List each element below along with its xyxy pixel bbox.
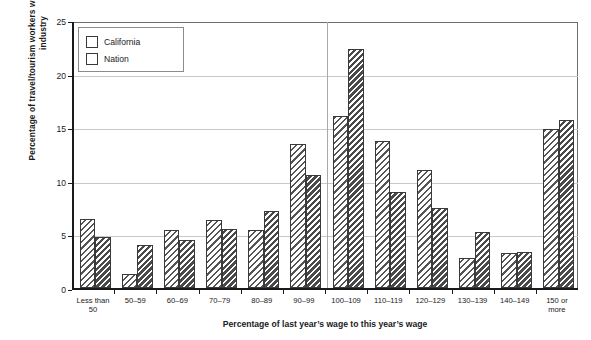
x-tick-mark xyxy=(452,290,453,294)
y-tick-label: 0 xyxy=(42,285,66,295)
bar-group xyxy=(496,22,538,288)
y-tick-label: 5 xyxy=(42,231,66,241)
x-axis-title: Percentage of last year’s wage to this y… xyxy=(72,319,578,329)
bar-california xyxy=(80,219,96,288)
legend-label-california: California xyxy=(104,37,140,47)
bar-california xyxy=(290,144,306,288)
bar-nation xyxy=(137,245,153,288)
x-tick-mark xyxy=(409,290,410,294)
bar-group xyxy=(327,22,369,288)
bar-nation xyxy=(517,252,533,288)
bar-california xyxy=(248,230,264,288)
x-tick-mark xyxy=(536,290,537,294)
chart-figure: Percentage of travel/tourism workers who… xyxy=(0,0,591,340)
bar-group xyxy=(411,22,453,288)
bar-california xyxy=(375,141,391,288)
legend-swatch-california-icon xyxy=(86,36,98,48)
bar-nation xyxy=(559,120,575,288)
bar-nation xyxy=(432,208,448,288)
bar-california xyxy=(459,258,475,288)
plot-vertical-divider xyxy=(327,22,328,288)
bar-california xyxy=(501,253,517,288)
bar-california xyxy=(417,170,433,288)
bar-nation xyxy=(222,229,238,288)
x-tick-mark xyxy=(156,290,157,294)
bar-california xyxy=(206,220,222,288)
y-tick-label: 25 xyxy=(42,17,66,27)
bar-nation xyxy=(348,49,364,288)
bar-california xyxy=(122,274,138,288)
bar-nation xyxy=(475,232,491,288)
bar-california xyxy=(333,116,349,288)
bar-group xyxy=(454,22,496,288)
bar-group xyxy=(538,22,580,288)
y-tick-label: 20 xyxy=(42,71,66,81)
legend-label-nation: Nation xyxy=(104,54,129,64)
x-tick-mark xyxy=(114,290,115,294)
legend-item-california: California xyxy=(86,33,183,50)
bar-nation xyxy=(95,237,111,288)
bar-nation xyxy=(179,240,195,288)
bar-group xyxy=(369,22,411,288)
x-tick-mark xyxy=(325,290,326,294)
bar-nation xyxy=(390,192,406,288)
legend-item-nation: Nation xyxy=(86,50,183,67)
bar-nation xyxy=(264,211,280,288)
legend-swatch-nation-icon xyxy=(86,53,98,65)
bar-california xyxy=(543,129,559,288)
bar-nation xyxy=(306,175,322,288)
y-tick-label: 10 xyxy=(42,178,66,188)
bar-california xyxy=(164,230,180,288)
x-tick-mark xyxy=(241,290,242,294)
y-tick-mark xyxy=(68,290,72,291)
x-tick-label: 150 ormore xyxy=(525,296,589,315)
x-tick-mark xyxy=(199,290,200,294)
x-tick-mark xyxy=(283,290,284,294)
x-tick-mark xyxy=(367,290,368,294)
legend: California Nation xyxy=(78,27,184,72)
bar-group xyxy=(285,22,327,288)
bar-group xyxy=(243,22,285,288)
x-tick-mark xyxy=(494,290,495,294)
y-tick-label: 15 xyxy=(42,124,66,134)
bar-group xyxy=(201,22,243,288)
